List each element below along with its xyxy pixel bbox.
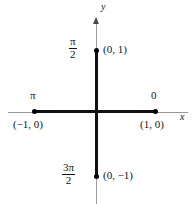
coordinate-label-neg1-0: (−1, 0) (13, 119, 43, 131)
point-0-neg1 (94, 174, 99, 179)
angle-label-3pi-over-2-numerator: 3π (62, 162, 75, 173)
angle-label-zero: 0 (151, 90, 157, 102)
angle-label-pi-over-2-denominator: 2 (69, 49, 77, 60)
x-axis-label: x (180, 112, 184, 123)
coordinate-label-1-0: (1, 0) (140, 119, 164, 131)
coordinate-label-0-1: (0, 1) (103, 44, 127, 56)
coordinate-plane-figure: y x π 2 3π 2 π 0 (0, 1) (0, −1) (−1, 0) … (0, 0, 196, 204)
angle-label-3pi-over-2: 3π 2 (62, 162, 75, 186)
point-1-0 (153, 109, 158, 114)
angle-label-pi-over-2: π 2 (69, 36, 77, 60)
vertical-segment (95, 50, 98, 177)
point-0-1 (94, 48, 99, 53)
y-axis-arrowhead-icon (93, 17, 99, 24)
coordinate-label-0-neg1: (0, −1) (103, 170, 133, 182)
angle-label-pi-over-2-numerator: π (69, 36, 77, 47)
point-neg1-0 (32, 109, 37, 114)
y-axis-label: y (101, 2, 105, 13)
angle-label-3pi-over-2-denominator: 2 (62, 175, 75, 186)
angle-label-pi: π (30, 90, 36, 102)
